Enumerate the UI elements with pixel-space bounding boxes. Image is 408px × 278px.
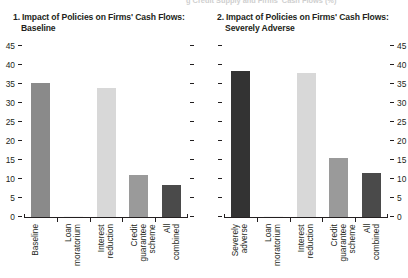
y-tick-mark-mirror: [190, 159, 194, 160]
chart-panel-baseline: 1.Impact of Policies on Firms' Cash Flow…: [0, 0, 204, 278]
panel-1-title-line1: Impact of Policies on Firms' Cash Flows:: [22, 12, 185, 22]
y-tick-label: 40: [6, 61, 15, 69]
y-tick-label: 15: [397, 156, 406, 164]
y-tick-label: 25: [397, 118, 406, 126]
y-tick-mark: [18, 64, 22, 65]
y-tick-mark-mirror: [218, 102, 222, 103]
x-axis-label: Interest reduction: [297, 224, 315, 258]
x-axis-label: Loan moratorium: [64, 224, 82, 266]
bar: [297, 73, 316, 217]
y-tick-mark: [390, 102, 394, 103]
y-tick-mark-mirror: [218, 121, 222, 122]
bar: [264, 216, 283, 217]
y-tick-mark: [18, 121, 22, 122]
chart-panel-severely-adverse: 2.Impact of Policies on Firms' Cash Flow…: [204, 0, 408, 278]
bar: [362, 173, 381, 217]
panel-1-bars: BaselineLoan moratoriumInterest reductio…: [24, 40, 188, 218]
panel-1-title: 1.Impact of Policies on Firms' Cash Flow…: [13, 12, 203, 35]
y-tick-mark: [390, 178, 394, 179]
bar: [231, 71, 250, 217]
y-tick-label: 0: [10, 213, 15, 221]
x-axis-label: Credit guarantee scheme: [130, 224, 158, 261]
x-axis-label: Interest reduction: [97, 224, 115, 258]
y-tick-mark: [390, 64, 394, 65]
chart-panels: 1.Impact of Policies on Firms' Cash Flow…: [0, 0, 408, 278]
y-tick-mark-mirror: [190, 83, 194, 84]
y-tick-mark-mirror: [190, 197, 194, 198]
bar: [162, 185, 181, 217]
y-tick-mark: [390, 121, 394, 122]
y-tick-label: 35: [6, 80, 15, 88]
x-axis-label: All combined: [363, 224, 381, 260]
x-tick-mark: [257, 218, 258, 222]
y-tick-mark: [18, 197, 22, 198]
y-tick-label: 45: [6, 42, 15, 50]
y-tick-label: 5: [10, 194, 15, 202]
y-tick-mark-mirror: [218, 45, 222, 46]
x-tick-mark: [90, 218, 91, 222]
bar: [64, 216, 83, 217]
bar: [97, 88, 116, 217]
y-tick-mark-mirror: [218, 159, 222, 160]
y-tick-label: 25: [6, 118, 15, 126]
y-tick-mark-mirror: [218, 83, 222, 84]
bar: [129, 175, 148, 217]
panel-2-title: 2.Impact of Policies on Firms' Cash Flow…: [217, 12, 407, 35]
x-tick-mark: [122, 218, 123, 222]
y-tick-label: 20: [397, 137, 406, 145]
y-tick-label: 45: [397, 42, 406, 50]
y-tick-label: 35: [397, 80, 406, 88]
y-tick-mark-mirror: [190, 102, 194, 103]
y-tick-label: 30: [397, 99, 406, 107]
bar: [329, 158, 348, 217]
y-tick-mark-mirror: [218, 64, 222, 65]
y-tick-label: 20: [6, 137, 15, 145]
panel-1-plot-area: 051015202530354045 BaselineLoan moratori…: [24, 40, 188, 218]
y-tick-mark-mirror: [190, 216, 194, 217]
x-tick-mark: [57, 218, 58, 222]
y-tick-mark: [390, 45, 394, 46]
x-axis-label: Loan moratorium: [264, 224, 282, 266]
y-tick-mark-mirror: [218, 197, 222, 198]
y-tick-mark: [390, 197, 394, 198]
y-tick-mark: [18, 140, 22, 141]
y-tick-mark: [18, 102, 22, 103]
y-tick-mark: [390, 159, 394, 160]
x-axis-label: Baseline: [31, 224, 40, 256]
x-tick-mark: [155, 218, 156, 222]
y-tick-label: 15: [6, 156, 15, 164]
x-tick-mark: [322, 218, 323, 222]
x-axis-label: All combined: [163, 224, 181, 260]
y-tick-mark: [18, 83, 22, 84]
y-tick-mark-mirror: [190, 121, 194, 122]
y-tick-mark: [18, 45, 22, 46]
y-tick-label: 10: [397, 175, 406, 183]
y-tick-mark-mirror: [190, 64, 194, 65]
y-tick-mark-mirror: [190, 140, 194, 141]
panel-2-title-line1: Impact of Policies on Firms' Cash Flows:: [226, 12, 389, 22]
y-tick-label: 10: [6, 175, 15, 183]
panel-2-plot-area: 051015202530354045 Severely adverseLoan …: [224, 40, 388, 218]
panel-2-number: 2.: [217, 12, 224, 22]
x-axis-label: Severely adverse: [231, 224, 249, 256]
y-tick-mark-mirror: [218, 140, 222, 141]
panel-1-number: 1.: [13, 12, 20, 22]
y-tick-mark-mirror: [218, 178, 222, 179]
y-tick-mark: [390, 140, 394, 141]
panel-2-title-line2: Severely Adverse: [217, 23, 407, 34]
y-tick-mark-mirror: [190, 178, 194, 179]
x-axis-label: Credit guarantee scheme: [330, 224, 358, 261]
x-tick-mark: [355, 218, 356, 222]
y-tick-label: 5: [397, 194, 402, 202]
x-tick-mark: [290, 218, 291, 222]
y-tick-label: 0: [397, 213, 402, 221]
y-tick-mark: [18, 159, 22, 160]
panel-1-title-line2: Baseline: [13, 23, 203, 34]
y-tick-mark: [390, 83, 394, 84]
y-tick-mark-mirror: [218, 216, 222, 217]
y-tick-label: 40: [397, 61, 406, 69]
panel-2-bars: Severely adverseLoan moratoriumInterest …: [224, 40, 388, 218]
y-tick-mark: [18, 178, 22, 179]
y-tick-mark: [390, 216, 394, 217]
y-tick-mark: [18, 216, 22, 217]
